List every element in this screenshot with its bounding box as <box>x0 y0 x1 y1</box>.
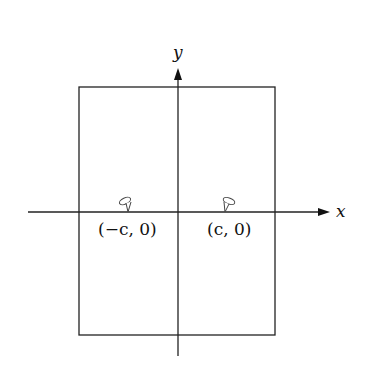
diagram-canvas <box>0 0 367 382</box>
point-label-c: (c, 0) <box>207 221 251 238</box>
y-axis-arrow-icon <box>174 68 182 80</box>
rectangle <box>79 87 275 335</box>
y-axis-label: y <box>173 44 183 61</box>
thumbtack-icon <box>118 196 131 212</box>
x-axis-label: x <box>336 203 346 220</box>
x-axis-arrow-icon <box>318 208 330 216</box>
point-label-neg-c: (−c, 0) <box>98 221 157 238</box>
thumbtack-icon <box>222 196 235 212</box>
